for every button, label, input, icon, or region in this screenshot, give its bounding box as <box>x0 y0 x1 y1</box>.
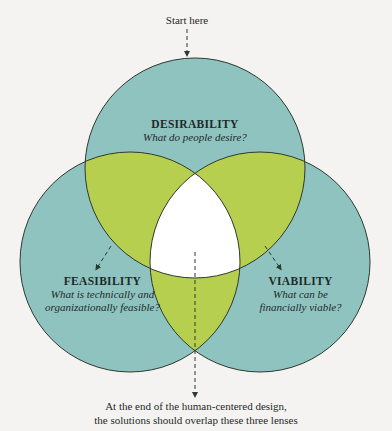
feasibility-question-line1: What is technically and <box>30 288 175 301</box>
caption: At the end of the human-centered design,… <box>40 399 352 428</box>
desirability-question: What do people desire? <box>115 131 275 144</box>
desirability-title: DESIRABILITY <box>115 118 275 131</box>
viability-title: VIABILITY <box>243 275 358 288</box>
viability-question-line2: financially viable? <box>243 301 358 314</box>
start-label: Start here <box>147 14 227 27</box>
feasibility-title: FEASIBILITY <box>30 275 175 288</box>
desirability-label: DESIRABILITY What do people desire? <box>115 118 275 144</box>
venn-diagram: Start here DESIRABILITY What do people d… <box>0 0 392 431</box>
viability-label: VIABILITY What can be financially viable… <box>243 275 358 314</box>
caption-line2: the solutions should overlap these three… <box>40 413 352 427</box>
feasibility-question-line2: organizationally feasible? <box>30 301 175 314</box>
viability-question-line1: What can be <box>243 288 358 301</box>
venn-graphic <box>0 0 392 431</box>
caption-line1: At the end of the human-centered design, <box>40 399 352 413</box>
feasibility-label: FEASIBILITY What is technically and orga… <box>30 275 175 314</box>
